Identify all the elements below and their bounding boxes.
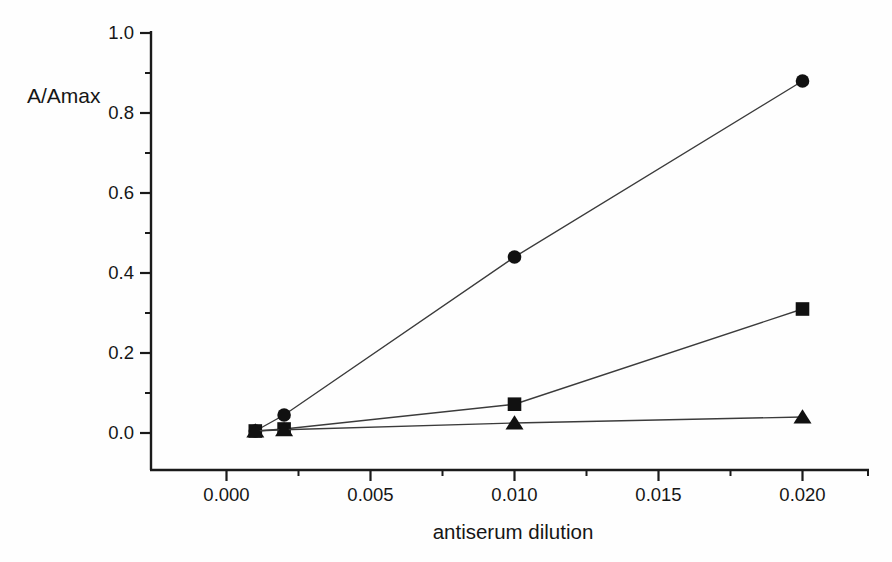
x-axis-title: antiserum dilution: [433, 520, 594, 543]
series-line: [255, 309, 802, 431]
y-tick-label: 1.0: [108, 22, 134, 43]
square-marker: [796, 302, 810, 316]
y-tick-label: 0.8: [108, 102, 134, 123]
circle-marker: [277, 408, 291, 422]
x-tick-label: 0.000: [203, 484, 249, 505]
y-tick-label: 0.6: [108, 182, 134, 203]
triangle-marker: [794, 409, 812, 423]
square-marker: [508, 397, 522, 411]
axes: 0.00.20.40.60.81.00.0000.0050.0100.0150.…: [108, 22, 869, 505]
circle-marker: [508, 250, 522, 264]
filled-circle-series: [249, 74, 810, 438]
x-tick-label: 0.015: [635, 484, 681, 505]
x-tick-label: 0.020: [779, 484, 825, 505]
y-axis-title: A/Amax: [27, 84, 101, 107]
plot-svg: 0.00.20.40.60.81.00.0000.0050.0100.0150.…: [0, 0, 892, 562]
filled-square-series: [249, 302, 810, 438]
series-line: [255, 417, 802, 431]
x-tick-label: 0.005: [347, 484, 393, 505]
y-tick-label: 0.2: [108, 342, 134, 363]
series-line: [255, 81, 802, 431]
x-tick-label: 0.010: [491, 484, 537, 505]
y-tick-label: 0.0: [108, 422, 134, 443]
chart-figure: 0.00.20.40.60.81.00.0000.0050.0100.0150.…: [0, 0, 892, 562]
circle-marker: [796, 74, 810, 88]
y-tick-label: 0.4: [108, 262, 134, 283]
